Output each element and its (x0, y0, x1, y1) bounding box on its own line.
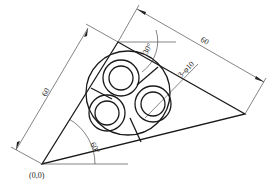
arrow-left-bottom (16, 141, 20, 150)
ext-left-bottom (11, 147, 42, 164)
divider-top (137, 67, 158, 85)
drawing-canvas: (0,0) 60 60 60° 30° 3-φ10 (0, 0, 274, 186)
hole-bottom-left (89, 95, 125, 131)
arrow-right-top (137, 9, 146, 15)
angle-arc-bottom (69, 119, 95, 164)
divider-bottom (130, 118, 141, 142)
ext-left-top (86, 24, 118, 42)
arrow-left-top (84, 28, 88, 37)
hole-top (103, 60, 139, 96)
dim-line-right (137, 9, 264, 82)
arrow-right-bottom (255, 76, 264, 82)
divider-left (91, 88, 112, 99)
triangle-outline (42, 42, 245, 164)
label-dim-right: 60 (199, 35, 210, 47)
ext-right-bottom (245, 78, 266, 114)
hole-right (135, 86, 171, 122)
dim-line-left (16, 28, 88, 150)
label-origin: (0,0) (29, 171, 45, 180)
ext-right-top (118, 5, 139, 42)
label-dim-left: 60 (40, 87, 52, 98)
